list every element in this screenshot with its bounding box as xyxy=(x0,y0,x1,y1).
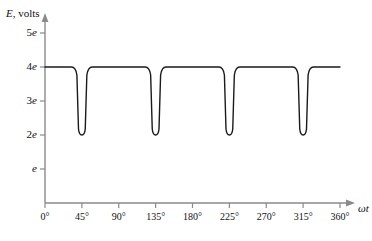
y-tick-symbol: e xyxy=(32,94,37,106)
y-tick-label: 2e xyxy=(8,129,37,140)
y-tick-symbol: e xyxy=(32,60,37,72)
y-axis-arrow-icon xyxy=(42,13,49,22)
x-tick-label: 135° xyxy=(136,212,176,222)
x-tick-marks xyxy=(45,203,340,208)
y-tick-symbol: e xyxy=(32,26,37,38)
x-axis-arrow-icon xyxy=(346,200,355,207)
waveform-trace xyxy=(45,67,340,135)
y-tick-marks xyxy=(40,33,45,169)
y-tick-symbol: e xyxy=(32,162,37,174)
chart-figure: E, volts ωt e2e3e4e5e 0°45°90°135°180°22… xyxy=(0,0,372,241)
x-tick-label: 180° xyxy=(173,212,213,222)
y-tick-label: 5e xyxy=(8,27,37,38)
x-tick-label: 90° xyxy=(99,212,139,222)
y-tick-symbol: e xyxy=(32,128,37,140)
y-axis-title: E, volts xyxy=(6,8,40,19)
y-tick-label: 3e xyxy=(8,95,37,106)
y-axis-title-symbol: E xyxy=(6,7,13,19)
x-tick-label: 270° xyxy=(246,212,286,222)
x-tick-label: 360° xyxy=(320,212,360,222)
x-tick-label: 225° xyxy=(209,212,249,222)
y-tick-label: e xyxy=(8,163,37,174)
chart-plot-area xyxy=(0,0,372,241)
x-tick-label: 45° xyxy=(62,212,102,222)
x-tick-label: 0° xyxy=(25,212,65,222)
y-tick-label: 4e xyxy=(8,61,37,72)
y-axis-title-rest: , volts xyxy=(13,7,40,19)
x-tick-label: 315° xyxy=(283,212,323,222)
axes-group xyxy=(42,13,355,206)
